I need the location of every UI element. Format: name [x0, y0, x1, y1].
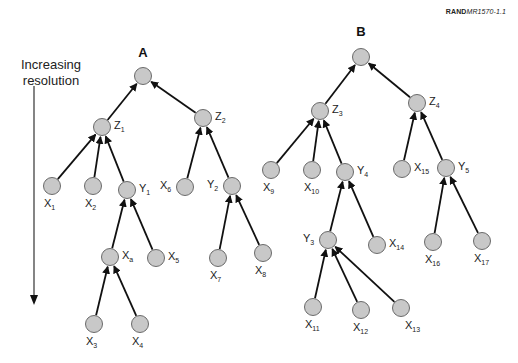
tree-title-a: A: [138, 45, 147, 60]
node-z2: [194, 109, 212, 127]
node-label-y5: Y5: [458, 160, 469, 174]
edge-x6-to-z2: [187, 128, 200, 179]
edge-x14-to-y4: [349, 181, 373, 237]
node-y3: [319, 231, 337, 249]
node-xa: [101, 248, 119, 266]
resolution-axis: [30, 86, 38, 305]
node-x10: [303, 161, 321, 179]
axis-label-line2: resolution: [18, 73, 84, 89]
node-label-x17: X17: [474, 252, 489, 266]
node-label-x14: X14: [389, 237, 404, 251]
edge-x5-to-y1: [131, 199, 153, 250]
edge-z1-to-a: [108, 84, 137, 120]
node-label-x9: X9: [263, 181, 274, 195]
node-y4: [336, 163, 354, 181]
edge-x11-to-y3: [315, 250, 326, 298]
edge-x12-to-y3: [332, 249, 357, 302]
node-y2: [223, 177, 241, 195]
axis-label-line1: Increasing: [18, 57, 84, 73]
node-x1: [43, 177, 61, 195]
tree-title-b: B: [356, 24, 365, 39]
edge-x15-to-z4: [404, 113, 415, 160]
node-label-z1: Z1: [114, 119, 125, 133]
node-x17: [473, 232, 491, 250]
node-label-x10: X10: [304, 181, 319, 195]
node-label-z4: Z4: [429, 95, 440, 109]
edge-z4-to-b: [369, 63, 410, 97]
node-label-x13: X13: [405, 319, 420, 333]
node-x4: [131, 315, 149, 333]
node-x3: [85, 315, 103, 333]
node-x7: [209, 249, 227, 267]
node-b: [352, 48, 370, 66]
reference-id: MR1570-1.1: [466, 8, 506, 15]
node-x8: [254, 244, 272, 262]
node-x13: [392, 299, 410, 317]
axis-arrowhead-icon: [30, 295, 38, 305]
node-x14: [368, 236, 386, 254]
node-z1: [93, 118, 111, 136]
node-label-x1: X1: [44, 197, 55, 211]
node-label-x5: X5: [168, 250, 179, 264]
node-label-z3: Z3: [332, 103, 343, 117]
edge-xa-to-y1: [112, 200, 124, 249]
edge-x1-to-z1: [58, 135, 96, 180]
node-label-x4: X4: [132, 335, 143, 349]
edge-x10-to-z3: [313, 121, 319, 161]
node-x15: [393, 160, 411, 178]
edge-x9-to-z3: [277, 119, 314, 163]
node-label-y2: Y2: [207, 178, 218, 192]
node-y1: [118, 181, 136, 199]
node-label-z2: Z2: [215, 110, 226, 124]
edge-y2-to-z2: [207, 127, 229, 178]
reference-org: RAND: [446, 8, 467, 15]
edge-x16-to-y5: [435, 178, 445, 233]
edge-x3-to-xa: [96, 267, 108, 316]
node-x12: [352, 301, 370, 319]
figure-reference: RANDMR1570-1.1: [446, 8, 506, 15]
node-label-xa: Xa: [122, 249, 133, 263]
edge-x4-to-xa: [114, 266, 136, 316]
node-label-y4: Y4: [357, 164, 368, 178]
edge-x8-to-y2: [236, 195, 259, 245]
node-label-x11: X11: [305, 318, 320, 332]
node-z3: [311, 102, 329, 120]
diagram-canvas: [0, 0, 518, 363]
axis-label: Increasing resolution: [18, 57, 84, 89]
node-z4: [408, 94, 426, 112]
node-x6: [176, 178, 194, 196]
node-label-x2: X2: [85, 197, 96, 211]
node-x11: [304, 298, 322, 316]
node-label-x12: X12: [353, 321, 368, 335]
edge-x2-to-z1: [94, 137, 100, 177]
node-label-y3: Y3: [303, 232, 314, 246]
edge-z3-to-b: [325, 65, 355, 104]
edge-x17-to-y5: [450, 177, 478, 233]
edge-y3-to-y4: [330, 182, 342, 232]
node-label-x8: X8: [255, 264, 266, 278]
node-x5: [147, 249, 165, 267]
node-x2: [84, 177, 102, 195]
edge-y4-to-z3: [324, 120, 342, 163]
edge-y1-to-z1: [106, 136, 124, 181]
node-label-x7: X7: [210, 269, 221, 283]
node-x9: [262, 161, 280, 179]
node-label-x16: X16: [425, 253, 440, 267]
node-a: [134, 67, 152, 85]
node-x16: [424, 233, 442, 251]
node-label-x3: X3: [86, 335, 97, 349]
node-y5: [437, 159, 455, 177]
node-label-x6: X6: [160, 179, 171, 193]
edge-x7-to-y2: [220, 196, 230, 249]
edge-y5-to-z4: [421, 112, 442, 160]
node-label-x15: X15: [414, 161, 429, 175]
edge-z2-to-a: [151, 82, 195, 113]
node-label-y1: Y1: [139, 182, 150, 196]
